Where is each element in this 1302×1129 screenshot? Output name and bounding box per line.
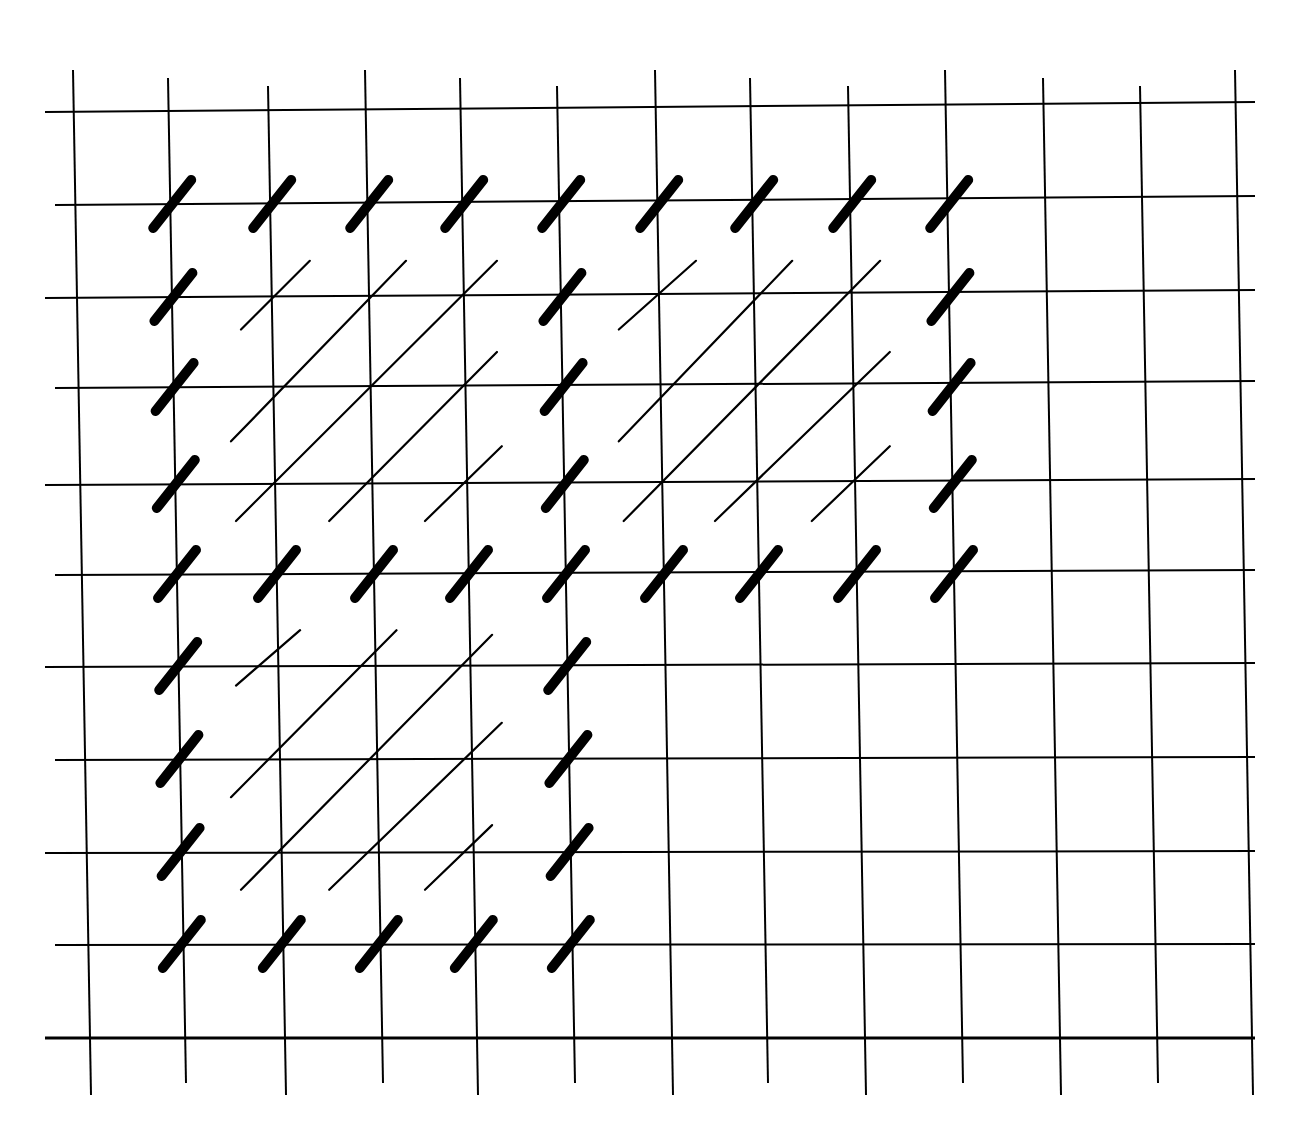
grid-horizontal-line (55, 757, 1255, 760)
grid-vertical-line (73, 70, 91, 1095)
thin-diagonal-stitch (329, 352, 497, 521)
thick-stitch (445, 180, 483, 228)
thin-diagonal-stitch (231, 261, 406, 442)
thick-stitches (153, 180, 973, 968)
grid-horizontal-line (55, 944, 1255, 945)
thin-diagonal-stitch (236, 630, 300, 685)
thin-diagonal-stitch (619, 261, 696, 330)
grid-horizontal-line (45, 290, 1255, 298)
stitch-grid-diagram (0, 0, 1302, 1129)
grid-horizontal-line (55, 570, 1255, 575)
thin-diagonal-stitch (241, 261, 310, 330)
thick-stitch (543, 273, 581, 321)
thick-stitch (350, 180, 388, 228)
thick-stitch (542, 180, 580, 228)
thick-stitch (833, 180, 871, 228)
grid-lines (45, 70, 1255, 1095)
thick-stitch (931, 273, 969, 321)
thick-stitch (735, 180, 773, 228)
grid-horizontal-line (45, 479, 1255, 485)
grid-horizontal-line (45, 663, 1255, 667)
thin-diagonal-stitch (425, 825, 492, 890)
thick-stitch (930, 180, 968, 228)
thin-diagonal-stitch (329, 723, 502, 890)
grid-vertical-line (1140, 86, 1158, 1083)
grid-horizontal-line (55, 381, 1255, 388)
thin-diagonal-stitch (812, 446, 890, 521)
grid-vertical-line (1235, 70, 1253, 1095)
grid-vertical-line (1043, 78, 1061, 1095)
grid-horizontal-line (45, 102, 1255, 112)
thin-diagonal-stitch (715, 352, 890, 521)
thin-diagonal-stitch (619, 261, 792, 442)
thin-diagonal-stitch (231, 630, 397, 797)
grid-horizontal-line (45, 851, 1255, 853)
thick-stitch (640, 180, 678, 228)
